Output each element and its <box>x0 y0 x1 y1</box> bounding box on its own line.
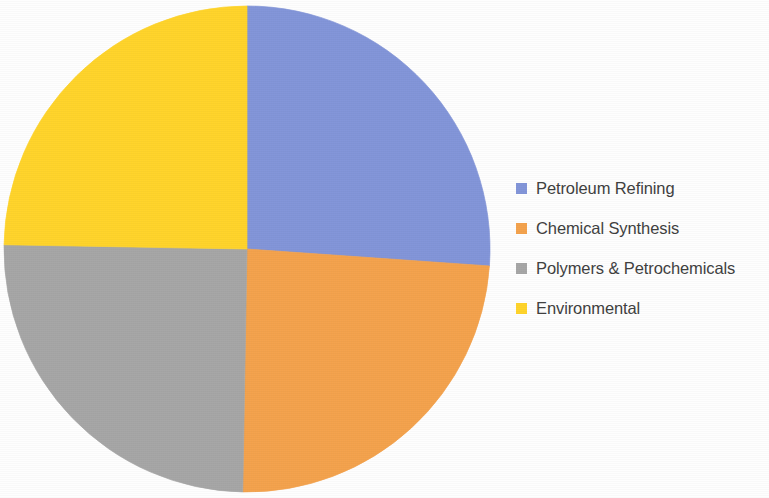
legend-item-environmental[interactable]: Environmental <box>516 288 769 328</box>
chart-legend: Petroleum Refining Chemical Synthesis Po… <box>516 168 769 328</box>
legend-label-polymers-petrochemicals: Polymers & Petrochemicals <box>536 260 735 277</box>
legend-swatch-orange-icon <box>516 223 527 234</box>
legend-swatch-blue-icon <box>516 183 527 194</box>
legend-label-environmental: Environmental <box>536 300 640 317</box>
pie-chart-figure: Petroleum Refining Chemical Synthesis Po… <box>0 0 769 498</box>
legend-item-polymers-petrochemicals[interactable]: Polymers & Petrochemicals <box>516 248 769 288</box>
pie-slices-group <box>4 6 490 492</box>
legend-label-petroleum-refining: Petroleum Refining <box>536 180 675 197</box>
legend-swatch-yellow-icon <box>516 303 527 314</box>
legend-item-chemical-synthesis[interactable]: Chemical Synthesis <box>516 208 769 248</box>
legend-item-petroleum-refining[interactable]: Petroleum Refining <box>516 168 769 208</box>
legend-label-chemical-synthesis: Chemical Synthesis <box>536 220 679 237</box>
pie-slice[interactable] <box>4 6 247 249</box>
pie-slice[interactable] <box>4 245 247 492</box>
legend-swatch-gray-icon <box>516 263 527 274</box>
pie-slice[interactable] <box>247 6 490 266</box>
pie-slice[interactable] <box>243 249 490 492</box>
